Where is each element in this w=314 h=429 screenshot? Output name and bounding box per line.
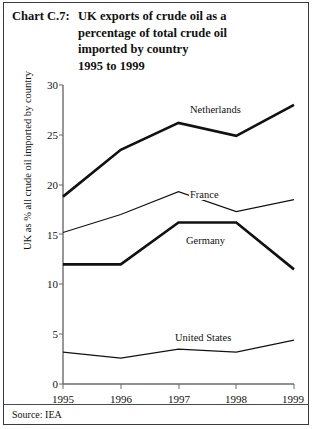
axes (59, 85, 294, 389)
chart-frame: Chart C.7: UK exports of crude oil as a … (3, 2, 309, 425)
series-label-netherlands: Netherlands (189, 104, 242, 115)
series-label-united-states: United States (174, 332, 232, 343)
source-note: Source: IEA (12, 409, 62, 420)
series-line-germany (63, 223, 294, 270)
series-label-france: France (189, 189, 220, 200)
chart-canvas (4, 3, 310, 426)
series-label-germany: Germany (185, 235, 226, 246)
line-chart: UK as % all crude oil imported by countr… (4, 3, 310, 426)
source-divider (4, 404, 309, 405)
series-line-netherlands (63, 105, 294, 197)
series-line-france (63, 192, 294, 233)
